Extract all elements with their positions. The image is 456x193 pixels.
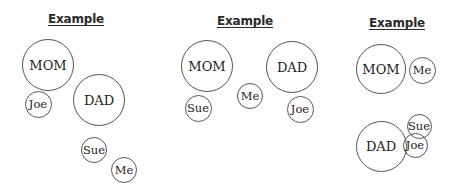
diagram-title: Example xyxy=(369,16,425,30)
diagram-title: Example xyxy=(48,12,104,26)
person-bubble-sue: Sue xyxy=(81,137,107,163)
person-bubble-sue: Sue xyxy=(185,95,212,122)
person-bubble-mom: MOM xyxy=(356,44,406,94)
person-bubble-mom: MOM xyxy=(181,40,233,92)
person-bubble-dad: DAD xyxy=(356,121,407,172)
person-bubble-joe: Joe xyxy=(25,91,52,118)
person-bubble-joe: Joe xyxy=(287,96,314,123)
person-bubble-joe: Joe xyxy=(403,133,428,158)
person-bubble-me: Me xyxy=(237,83,263,109)
person-bubble-dad: DAD xyxy=(73,74,125,126)
diagram-title: Example xyxy=(217,14,273,28)
person-bubble-dad: DAD xyxy=(266,41,318,93)
family-diagrams: Example MOM Joe DAD Sue Me Example MOM D… xyxy=(0,0,456,193)
person-bubble-me: Me xyxy=(111,157,137,183)
person-bubble-mom: MOM xyxy=(22,39,74,91)
person-bubble-me: Me xyxy=(409,57,436,84)
